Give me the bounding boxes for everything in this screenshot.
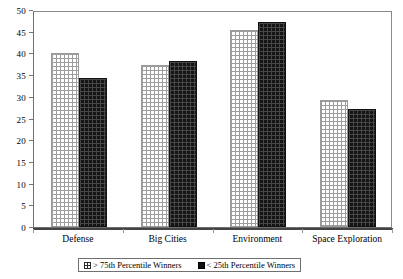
- bar-defense-series-2: [79, 78, 107, 227]
- y-axis-tick-40: 40: [0, 48, 33, 60]
- light-crosshatch-swatch-icon: [84, 262, 91, 269]
- legend-label-above-75th: > 75th Percentile Winners: [93, 260, 182, 271]
- y-axis-tick-label: 10: [17, 179, 26, 191]
- legend-label-below-25th: < 25th Percentile Winners: [207, 260, 296, 271]
- y-axis-tick-25: 25: [0, 114, 33, 126]
- y-axis-tick-5: 5: [0, 200, 33, 212]
- bar-big-cities-series-1: [141, 65, 169, 227]
- y-axis-tick-20: 20: [0, 135, 33, 147]
- y-axis-tick-label: 0: [21, 222, 26, 234]
- bar-chart: 50454035302520151050 DefenseBig CitiesEn…: [0, 0, 403, 279]
- x-axis-label-space-exploration: Space Exploration: [302, 233, 392, 246]
- y-axis-tick-30: 30: [0, 92, 33, 104]
- chart-legend: > 75th Percentile Winners < 25th Percent…: [78, 258, 301, 272]
- bar-space-exploration-series-2: [348, 109, 376, 227]
- y-axis-tick-15: 15: [0, 157, 33, 169]
- bars-layer: [34, 12, 391, 227]
- bar-environment-series-2: [258, 22, 286, 227]
- x-axis-tick-mark: [392, 229, 393, 233]
- y-axis-tick-label: 30: [17, 92, 26, 104]
- y-axis-tick-label: 20: [17, 135, 26, 147]
- y-axis-tick-label: 40: [17, 48, 26, 60]
- y-axis-tick-label: 35: [17, 70, 26, 82]
- y-axis-tick-50: 50: [0, 5, 33, 17]
- solid-dark-swatch-icon: [198, 262, 205, 269]
- y-axis-tick-label: 45: [17, 27, 26, 39]
- y-axis-tick-label: 15: [17, 157, 26, 169]
- legend-item-below-25th: < 25th Percentile Winners: [198, 260, 296, 271]
- y-axis-tick-label: 50: [17, 5, 26, 17]
- x-axis-label-defense: Defense: [33, 233, 123, 246]
- y-axis-tick-label: 25: [17, 114, 26, 126]
- plot-area: [33, 11, 392, 228]
- bar-defense-series-1: [51, 53, 79, 227]
- legend-item-above-75th: > 75th Percentile Winners: [84, 260, 182, 271]
- y-axis-tick-10: 10: [0, 179, 33, 191]
- bar-space-exploration-series-1: [320, 100, 348, 227]
- y-axis-tick-0: 0: [0, 222, 33, 234]
- bar-environment-series-1: [230, 30, 258, 227]
- bar-big-cities-series-2: [169, 61, 197, 227]
- x-axis-label-big-cities: Big Cities: [123, 233, 213, 246]
- y-axis-tick-35: 35: [0, 70, 33, 82]
- y-axis-tick-45: 45: [0, 27, 33, 39]
- y-axis-tick-label: 5: [21, 200, 26, 212]
- x-axis-label-environment: Environment: [213, 233, 303, 246]
